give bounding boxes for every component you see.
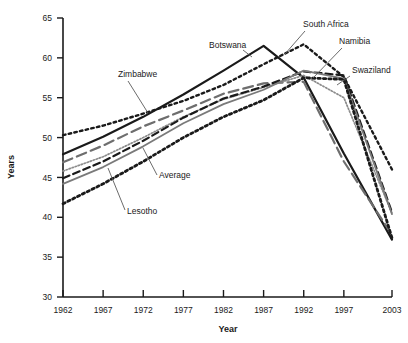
annotation-label-zimbabwe: Zimbabwe [118,69,157,79]
y-axis-title: Years [6,155,16,179]
annotation-label-botswana: Botswana [209,40,247,50]
x-tick-label: 1967 [94,305,113,315]
x-tick-label: 2003 [383,305,402,315]
annotation-label-swaziland: Swaziland [352,65,391,75]
chart-background [0,0,408,343]
x-tick-label: 1977 [174,305,193,315]
y-tick-label: 50 [43,133,53,143]
annotation-label-south-africa: South Africa [303,19,349,29]
x-axis-title: Year [218,324,238,334]
y-tick-label: 55 [43,93,53,103]
chart-canvas: 3035404550556065 19621967197219771982198… [0,0,408,343]
x-tick-label: 1987 [254,305,273,315]
annotation-label-namibia: Namibia [339,36,370,46]
y-tick-label: 35 [43,252,53,262]
y-tick-label: 60 [43,53,53,63]
life-expectancy-chart: 3035404550556065 19621967197219771982198… [0,0,408,343]
x-tick-label: 1962 [54,305,73,315]
x-tick-label: 1997 [334,305,353,315]
y-tick-label: 65 [43,13,53,23]
x-tick-label: 1972 [134,305,153,315]
y-tick-label: 40 [43,212,53,222]
x-tick-label: 1982 [214,305,233,315]
x-tick-label: 1992 [294,305,313,315]
y-tick-label: 30 [43,292,53,302]
annotation-label-lesotho: Lesotho [127,206,158,216]
annotation-label-average: Average [159,170,191,180]
y-tick-label: 45 [43,173,53,183]
